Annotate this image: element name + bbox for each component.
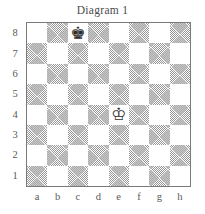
file-label-h: h — [170, 191, 190, 203]
rank-label-1: 1 — [8, 170, 22, 182]
rank-label-6: 6 — [8, 68, 22, 80]
square-g6[interactable] — [149, 64, 169, 84]
square-a1[interactable] — [27, 166, 47, 186]
chess-diagram: Diagram 1 87654321 abcdefgh ♚♔ — [0, 0, 205, 214]
rank-label-2: 2 — [8, 149, 22, 161]
square-c6[interactable] — [68, 64, 88, 84]
square-b4[interactable] — [47, 105, 67, 125]
square-c7[interactable] — [68, 43, 88, 63]
square-a4[interactable] — [27, 105, 47, 125]
square-c1[interactable] — [68, 166, 88, 186]
square-f3[interactable] — [129, 125, 149, 145]
square-f7[interactable] — [129, 43, 149, 63]
square-e6[interactable] — [109, 64, 129, 84]
square-g5[interactable] — [149, 84, 169, 104]
square-g1[interactable] — [149, 166, 169, 186]
square-e2[interactable] — [109, 145, 129, 165]
square-e7[interactable] — [109, 43, 129, 63]
square-g4[interactable] — [149, 105, 169, 125]
square-h5[interactable] — [170, 84, 190, 104]
square-e1[interactable] — [109, 166, 129, 186]
square-e4[interactable] — [109, 105, 129, 125]
file-label-b: b — [47, 191, 67, 203]
diagram-title: Diagram 1 — [0, 3, 205, 17]
square-g2[interactable] — [149, 145, 169, 165]
square-g3[interactable] — [149, 125, 169, 145]
square-b3[interactable] — [47, 125, 67, 145]
board-grid[interactable]: ♚♔ — [27, 23, 190, 186]
square-d7[interactable] — [88, 43, 108, 63]
square-d5[interactable] — [88, 84, 108, 104]
square-d1[interactable] — [88, 166, 108, 186]
square-h7[interactable] — [170, 43, 190, 63]
rank-label-4: 4 — [8, 109, 22, 121]
square-b6[interactable] — [47, 64, 67, 84]
square-d4[interactable] — [88, 105, 108, 125]
square-b5[interactable] — [47, 84, 67, 104]
square-a8[interactable] — [27, 23, 47, 43]
square-g7[interactable] — [149, 43, 169, 63]
square-c5[interactable] — [68, 84, 88, 104]
square-f6[interactable] — [129, 64, 149, 84]
square-d2[interactable] — [88, 145, 108, 165]
square-b2[interactable] — [47, 145, 67, 165]
rank-label-3: 3 — [8, 129, 22, 141]
file-label-d: d — [88, 191, 108, 203]
rank-label-5: 5 — [8, 88, 22, 100]
file-label-g: g — [149, 191, 169, 203]
square-h2[interactable] — [170, 145, 190, 165]
square-d8[interactable] — [88, 23, 108, 43]
square-b8[interactable] — [47, 23, 67, 43]
square-a3[interactable] — [27, 125, 47, 145]
square-h1[interactable] — [170, 166, 190, 186]
file-label-a: a — [27, 191, 47, 203]
square-f5[interactable] — [129, 84, 149, 104]
square-h8[interactable] — [170, 23, 190, 43]
square-a5[interactable] — [27, 84, 47, 104]
rank-label-8: 8 — [8, 27, 22, 39]
square-d3[interactable] — [88, 125, 108, 145]
square-e8[interactable] — [109, 23, 129, 43]
square-c3[interactable] — [68, 125, 88, 145]
square-f8[interactable] — [129, 23, 149, 43]
square-c8[interactable] — [68, 23, 88, 43]
square-h6[interactable] — [170, 64, 190, 84]
square-h4[interactable] — [170, 105, 190, 125]
chessboard[interactable]: ♚♔ — [26, 22, 191, 187]
square-b1[interactable] — [47, 166, 67, 186]
square-h3[interactable] — [170, 125, 190, 145]
square-a6[interactable] — [27, 64, 47, 84]
square-f2[interactable] — [129, 145, 149, 165]
file-label-e: e — [109, 191, 129, 203]
square-b7[interactable] — [47, 43, 67, 63]
square-f4[interactable] — [129, 105, 149, 125]
square-a7[interactable] — [27, 43, 47, 63]
square-e5[interactable] — [109, 84, 129, 104]
square-a2[interactable] — [27, 145, 47, 165]
rank-label-7: 7 — [8, 48, 22, 60]
square-e3[interactable] — [109, 125, 129, 145]
file-label-f: f — [129, 191, 149, 203]
square-g8[interactable] — [149, 23, 169, 43]
square-d6[interactable] — [88, 64, 108, 84]
file-label-c: c — [68, 191, 88, 203]
square-c4[interactable] — [68, 105, 88, 125]
square-c2[interactable] — [68, 145, 88, 165]
square-f1[interactable] — [129, 166, 149, 186]
